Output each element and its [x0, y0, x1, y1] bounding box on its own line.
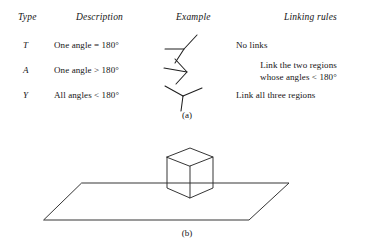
caption-panel-a: (a)	[0, 110, 374, 120]
rule-line-1: Link all three regions	[236, 90, 315, 100]
row-description-y: All angles < 180°	[54, 90, 119, 100]
junction-table: Type Description Example Linking rules T…	[0, 0, 374, 128]
column-header-example: Example	[176, 12, 211, 22]
column-header-type: Type	[18, 12, 37, 22]
row-rule-t: No links	[236, 40, 356, 52]
row-type-a: A	[23, 65, 29, 75]
column-header-description: Description	[76, 12, 123, 22]
cube-on-ground-plane-icon	[42, 140, 332, 228]
rule-line-1: Link the two regions	[236, 60, 361, 72]
row-description-t: One angle = 180°	[54, 40, 119, 50]
caption-panel-b: (b)	[0, 228, 374, 238]
cube-scene-panel: (b)	[0, 140, 374, 244]
rule-line-2: whose angles < 180°	[236, 72, 361, 84]
y-junction-icon	[162, 82, 206, 112]
column-header-linking-rules: Linking rules	[284, 12, 337, 22]
row-description-a: One angle > 180°	[54, 65, 119, 75]
rule-line-1: No links	[236, 40, 268, 50]
row-rule-a: Link the two regions whose angles < 180°	[236, 60, 361, 83]
row-type-t: T	[23, 40, 28, 50]
row-type-y: Y	[23, 90, 28, 100]
figure-page: Type Description Example Linking rules T…	[0, 0, 374, 244]
row-rule-y: Link all three regions	[236, 90, 361, 102]
